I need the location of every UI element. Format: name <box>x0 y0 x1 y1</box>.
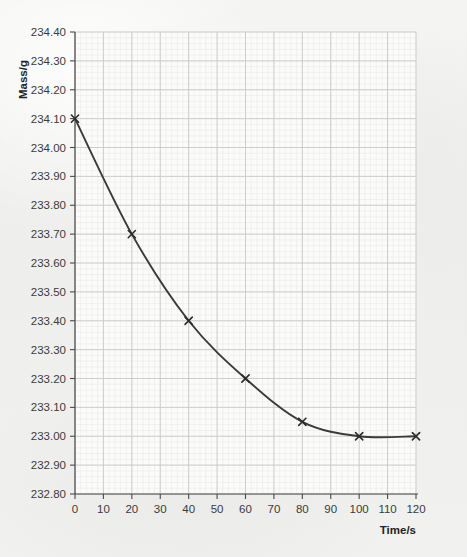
chart-canvas: 232.80232.90233.00233.10233.20233.30233.… <box>0 0 467 557</box>
y-tick-label: 234.30 <box>31 55 66 67</box>
y-tick-label: 233.40 <box>31 315 66 327</box>
y-tick-label: 233.20 <box>31 373 66 385</box>
y-tick-label: 234.00 <box>31 142 66 154</box>
y-tick-label: 232.90 <box>31 459 66 471</box>
y-tick-label: 233.00 <box>31 430 66 442</box>
x-tick-label: 100 <box>350 503 369 515</box>
x-tick-label: 20 <box>125 503 138 515</box>
x-axis-title: Time/s <box>380 524 416 536</box>
x-axis-ticks: 0102030405060708090100110120 <box>72 494 426 515</box>
x-tick-label: 60 <box>239 503 252 515</box>
y-tick-label: 233.50 <box>31 286 66 298</box>
mass-vs-time-chart: 232.80232.90233.00233.10233.20233.30233.… <box>0 0 467 557</box>
y-tick-label: 233.70 <box>31 228 66 240</box>
x-tick-label: 0 <box>72 503 78 515</box>
x-tick-label: 120 <box>406 503 425 515</box>
y-tick-label: 233.90 <box>31 170 66 182</box>
x-tick-label: 80 <box>296 503 309 515</box>
y-tick-label: 234.10 <box>31 113 66 125</box>
y-tick-label: 234.20 <box>31 84 66 96</box>
x-tick-label: 10 <box>97 503 110 515</box>
y-tick-label: 233.80 <box>31 199 66 211</box>
y-axis-title: Mass/g <box>17 60 29 99</box>
y-tick-label: 233.60 <box>31 257 66 269</box>
x-tick-label: 110 <box>378 503 396 515</box>
y-tick-label: 232.80 <box>31 488 66 500</box>
x-tick-label: 30 <box>154 503 167 515</box>
x-tick-label: 70 <box>268 503 281 515</box>
x-tick-label: 50 <box>211 503 224 515</box>
x-tick-label: 90 <box>324 503 337 515</box>
x-tick-label: 40 <box>182 503 195 515</box>
y-axis-ticks: 232.80232.90233.00233.10233.20233.30233.… <box>31 26 75 500</box>
y-tick-label: 233.10 <box>31 401 66 413</box>
y-tick-label: 233.30 <box>31 344 66 356</box>
y-tick-label: 234.40 <box>31 26 66 38</box>
